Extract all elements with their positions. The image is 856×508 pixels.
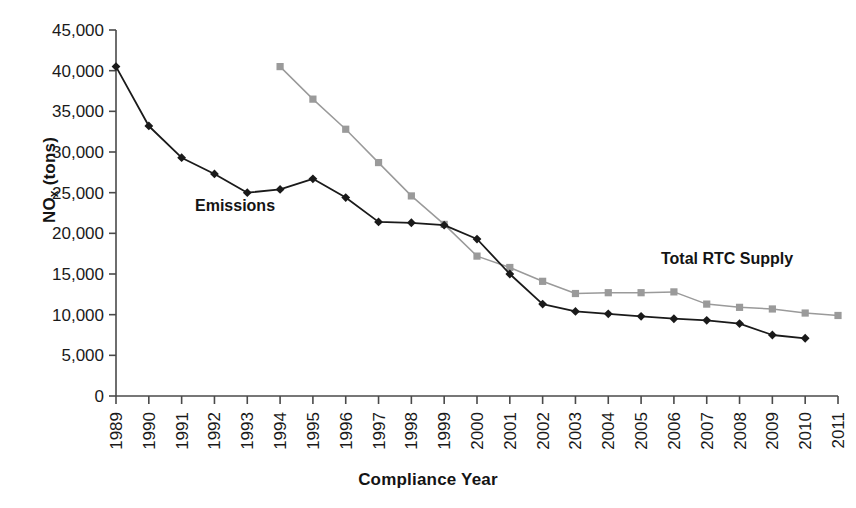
data-point-marker <box>572 290 579 297</box>
x-tick-label: 2007 <box>698 412 717 450</box>
y-axis: 05,00010,00015,00020,00025,00030,00035,0… <box>52 21 116 406</box>
x-tick-label: 2002 <box>534 412 553 450</box>
x-tick-label: 2008 <box>731 412 750 450</box>
data-point-marker <box>375 159 382 166</box>
plot-area: 05,00010,00015,00020,00025,00030,00035,0… <box>0 0 856 508</box>
x-tick-label: 2003 <box>566 412 585 450</box>
data-point-marker <box>801 334 810 343</box>
x-tick-label: 1992 <box>205 412 224 450</box>
x-tick-label: 1989 <box>107 412 126 450</box>
data-point-marker <box>604 309 613 318</box>
data-point-marker <box>768 331 777 340</box>
y-tick-label: 15,000 <box>52 265 104 284</box>
data-point-marker <box>539 278 546 285</box>
y-tick-label: 5,000 <box>61 346 104 365</box>
data-point-marker <box>637 289 644 296</box>
x-tick-label: 2004 <box>599 412 618 450</box>
x-tick-label: 2006 <box>665 412 684 450</box>
x-tick-label: 1998 <box>402 412 421 450</box>
data-point-marker <box>473 253 480 260</box>
data-point-marker <box>605 289 612 296</box>
x-tick-label: 1995 <box>304 412 323 450</box>
x-tick-label: 2009 <box>763 412 782 450</box>
data-point-marker <box>735 319 744 328</box>
data-point-marker <box>769 305 776 312</box>
data-point-marker <box>670 288 677 295</box>
x-tick-label: 1990 <box>140 412 159 450</box>
series-total-rtc-supply <box>276 63 841 319</box>
data-point-marker <box>112 62 121 71</box>
data-point-marker <box>703 300 710 307</box>
x-tick-label: 1991 <box>173 412 192 450</box>
data-point-marker <box>670 314 679 323</box>
data-point-marker <box>802 309 809 316</box>
x-tick-label: 2001 <box>501 412 520 450</box>
data-point-marker <box>408 192 415 199</box>
y-tick-label: 0 <box>95 387 104 406</box>
y-tick-label: 35,000 <box>52 102 104 121</box>
chart-container: NOx (tons) Compliance Year Emissions Tot… <box>0 0 856 508</box>
x-tick-label: 2010 <box>796 412 815 450</box>
x-tick-label: 2011 <box>829 412 848 449</box>
data-point-marker <box>342 126 349 133</box>
x-tick-label: 2000 <box>468 412 487 450</box>
data-point-marker <box>637 312 646 321</box>
data-point-marker <box>243 188 252 197</box>
x-tick-label: 1994 <box>271 412 290 450</box>
x-tick-label: 1997 <box>370 412 389 450</box>
y-tick-label: 20,000 <box>52 224 104 243</box>
y-tick-label: 30,000 <box>52 143 104 162</box>
x-tick-label: 1996 <box>337 412 356 450</box>
data-point-marker <box>702 316 711 325</box>
y-tick-label: 25,000 <box>52 184 104 203</box>
data-point-marker <box>276 185 285 194</box>
x-tick-label: 2005 <box>632 412 651 450</box>
y-tick-label: 10,000 <box>52 306 104 325</box>
data-point-marker <box>210 170 219 179</box>
y-tick-label: 45,000 <box>52 21 104 40</box>
data-point-marker <box>407 218 416 227</box>
data-point-marker <box>309 96 316 103</box>
data-point-marker <box>309 174 318 183</box>
data-point-marker <box>736 304 743 311</box>
data-point-marker <box>571 307 580 316</box>
x-tick-label: 1999 <box>435 412 454 450</box>
data-point-marker <box>276 63 283 70</box>
x-tick-label: 1993 <box>238 412 257 450</box>
data-series-group <box>112 62 842 342</box>
x-axis: 1989199019911992199319941995199619971998… <box>107 396 848 450</box>
y-tick-label: 40,000 <box>52 62 104 81</box>
data-point-marker <box>834 312 841 319</box>
